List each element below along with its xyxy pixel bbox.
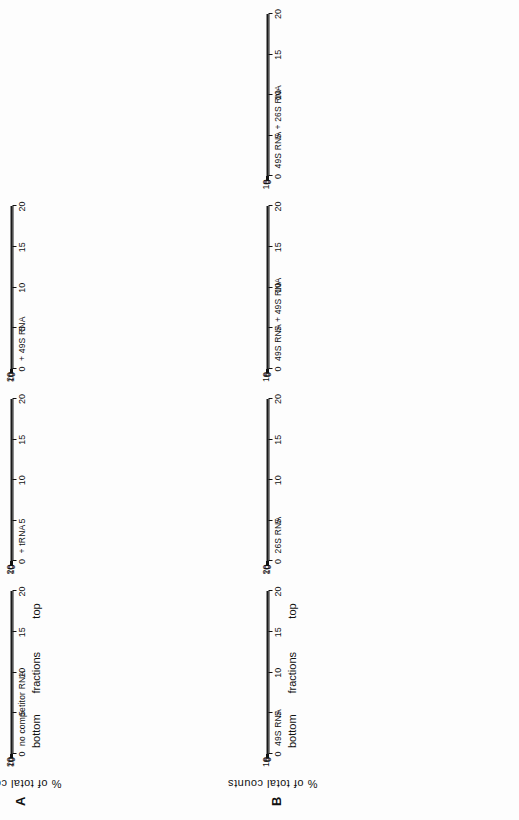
y-axis: 0510 [266,369,268,391]
x-tick-label: 0 [17,751,26,756]
x-tick-label: 20 [273,201,282,211]
y-tick-label: 10 [261,372,270,382]
chart-panel-26s-rna[interactable]: 0102026S RNA05101520 [266,399,300,584]
y-tick-mark [265,369,266,373]
x-tick-label: 15 [273,627,282,637]
x-tick-label: 0 [273,174,282,179]
x-axis-line [268,592,269,755]
figure-page: A% of total counts01020no competitor RNA… [0,0,519,820]
y-axis-title: % of total counts [10,776,22,792]
x-axis-line [12,399,13,562]
x-tick-label: 15 [273,435,282,445]
x-tick-label: 5 [17,326,26,331]
panel-strip: 051049S RNA05101520bottomfractionstop010… [266,14,300,776]
x-tick-label: 20 [273,9,282,19]
x-tick-mark [12,439,16,440]
x-tick-mark [268,246,272,247]
x-axis-captions [29,207,44,370]
x-axis: 05101520 [12,592,29,755]
x-tick-label: 15 [17,242,26,252]
x-axis-line [268,399,269,562]
x-tick-mark [268,672,272,673]
x-tick-label: 10 [17,283,26,293]
y-tick-label: 20 [6,565,15,575]
x-axis-line [268,14,269,177]
y-tick-label: 10 [261,757,270,767]
y-tick-label: 20 [6,757,15,767]
y-tick-mark [265,562,266,566]
x-axis-caption-bottom: bottom [29,714,41,748]
x-axis-captions: bottomfractionstop [29,592,44,755]
panel-spacer [10,14,44,199]
y-axis-title-text: % of total counts [227,778,317,790]
y-tick-mark [265,754,266,758]
x-axis-caption-fractions: fractions [29,652,41,694]
x-tick-mark [12,479,16,480]
y-axis: 0510 [266,177,268,199]
x-tick-mark [268,712,272,713]
chart-panel-no-competitor-rna[interactable]: 01020no competitor RNA05101520bottomfrac… [10,592,44,777]
x-tick-label: 0 [17,559,26,564]
x-tick-label: 20 [17,394,26,404]
x-tick-mark [268,631,272,632]
x-tick-label: 10 [273,90,282,100]
y-tick-mark [265,177,266,181]
x-tick-mark [12,561,16,562]
x-tick-label: 0 [273,751,282,756]
x-axis: 05101520 [268,14,285,177]
x-tick-label: 5 [273,518,282,523]
x-tick-mark [12,327,16,328]
chart-panel-49s-rna[interactable]: 051049S RNA05101520bottomfractionstop [266,592,300,777]
x-tick-label: 15 [273,50,282,60]
y-tick-label: 20 [6,372,15,382]
x-tick-mark [12,520,16,521]
x-tick-mark [12,368,16,369]
x-axis: 05101520 [268,399,285,562]
x-tick-mark [268,206,272,207]
x-axis-caption-top: top [285,603,297,618]
y-axis: 01020 [10,562,12,584]
x-axis-line [268,207,269,370]
x-axis-captions [285,207,300,370]
x-tick-label: 5 [273,133,282,138]
x-tick-mark [268,13,272,14]
x-axis: 05101520 [268,207,285,370]
x-tick-label: 10 [17,475,26,485]
x-tick-label: 20 [17,201,26,211]
y-tick-mark [10,754,11,758]
x-tick-mark [268,327,272,328]
x-tick-label: 15 [17,627,26,637]
x-tick-mark [268,54,272,55]
x-tick-mark [268,520,272,521]
chart-panel-49s-rna[interactable]: 01020+ 49S RNA05101520 [10,207,44,392]
y-tick-mark [10,562,11,566]
figure-row-b: B% of total counts051049S RNA05101520bot… [266,14,512,806]
y-axis: 01020 [10,369,12,391]
chart-panel-49s-rna-49s-rna[interactable]: 051049S RNA + 49S RNA05101520 [266,207,300,392]
x-tick-mark [12,631,16,632]
x-tick-mark [268,591,272,592]
x-tick-mark [12,246,16,247]
x-tick-mark [12,672,16,673]
y-tick-label: 20 [261,565,270,575]
x-tick-mark [12,287,16,288]
y-axis: 01020 [266,562,268,584]
x-axis-captions: bottomfractionstop [285,592,300,755]
x-tick-mark [12,206,16,207]
x-tick-label: 0 [17,366,26,371]
chart-panel-49s-rna-26s-rna[interactable]: 051049S RNA + 26S RNA05101520 [266,14,300,199]
x-tick-label: 15 [17,435,26,445]
x-axis: 05101520 [268,592,285,755]
panel-strip: 01020no competitor RNA05101520bottomfrac… [10,14,44,776]
y-axis: 01020 [10,754,12,776]
x-tick-mark [268,368,272,369]
x-tick-mark [268,135,272,136]
x-tick-label: 5 [17,711,26,716]
x-tick-mark [12,712,16,713]
chart-panel-trna[interactable]: 01020+ tRNA05101520 [10,399,44,584]
x-axis-captions [29,399,44,562]
x-tick-mark [268,561,272,562]
x-tick-label: 10 [17,668,26,678]
x-axis-captions [285,399,300,562]
x-tick-label: 10 [273,475,282,485]
